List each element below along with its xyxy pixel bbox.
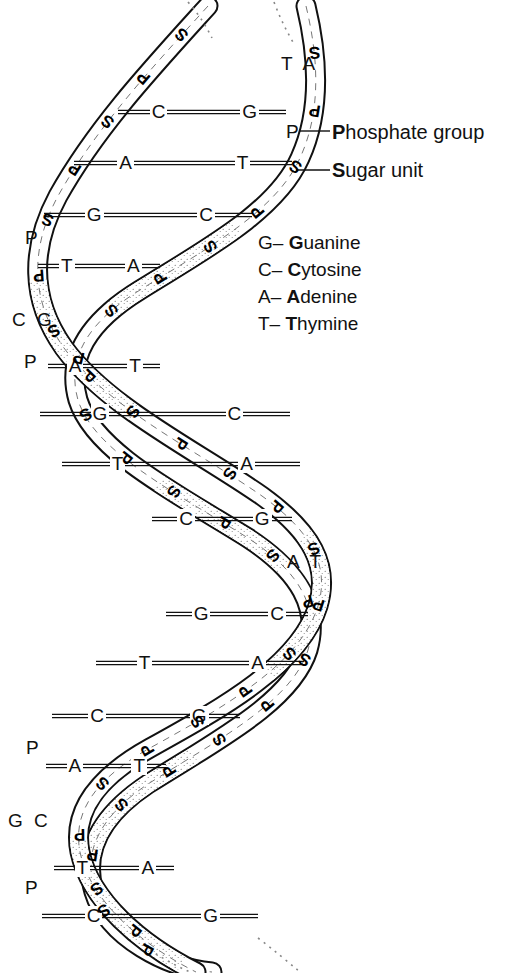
callout-sugar-head: S <box>332 159 345 181</box>
legend-item-adenine: A– Adenine <box>258 286 362 308</box>
base-letter-right-0: G <box>240 102 259 121</box>
crossing-label-left-upper: C G <box>12 310 55 329</box>
callout-phosphate-rest: hosphate group <box>345 121 484 143</box>
base-letter-right-5: C <box>226 404 244 423</box>
phosphate-unit-a5: P <box>32 266 45 284</box>
apex-phosphate-p-left-mid: P <box>26 738 39 757</box>
callout-sugar-rest: ugar unit <box>345 159 423 181</box>
base-letter-left-8: G <box>192 604 211 623</box>
legend-full-cytosine: Cytosine <box>288 259 362 280</box>
base-letter-right-11: T <box>131 756 147 775</box>
base-letter-right-12: A <box>139 858 156 877</box>
base-letter-right-2: C <box>197 205 215 224</box>
dna-figure: CGATGCTAATGCTACGGCTACGATTACGSPSPSPSPSPSP… <box>0 0 525 973</box>
base-letter-right-13: G <box>201 906 220 925</box>
callout-sugar-unit: Sugar unit <box>332 160 423 180</box>
crossing-label-left-lower: G C <box>8 811 51 830</box>
legend-abbr-t: T– <box>258 313 280 334</box>
base-letter-left-2: G <box>85 205 104 224</box>
base-legend: G– Guanine C– Cytosine A– Adenine T– Thy… <box>258 232 362 335</box>
legend-full-adenine: Adenine <box>287 286 358 307</box>
apex-phosphate-p-right-top: P <box>286 122 299 141</box>
apex-phosphate-p-left-bottom: P <box>24 352 37 371</box>
base-letter-left-7: C <box>177 509 195 528</box>
base-letter-left-11: A <box>67 756 84 775</box>
base-letter-right-3: A <box>125 256 142 275</box>
base-letter-right-6: A <box>238 454 255 473</box>
crossing-label-right-middle: A T <box>287 552 324 571</box>
legend-full-guanine: Guanine <box>289 232 361 253</box>
legend-item-guanine: G– Guanine <box>258 232 362 254</box>
base-letter-left-10: C <box>88 706 106 725</box>
crossing-label-top-right: T A <box>281 54 318 73</box>
legend-abbr-g: G– <box>258 232 283 253</box>
base-letter-left-3: T <box>59 256 75 275</box>
backbone-strand-b <box>75 6 316 972</box>
legend-item-thymine: T– Thymine <box>258 313 362 335</box>
callout-phosphate-head: P <box>332 121 345 143</box>
phosphate-unit-b19: P <box>86 845 100 864</box>
base-letter-right-7: G <box>253 509 272 528</box>
base-letter-right-9: A <box>249 653 266 672</box>
base-letter-right-4: T <box>127 356 143 375</box>
legend-item-cytosine: C– Cytosine <box>258 259 362 281</box>
legend-abbr-c: C– <box>258 259 282 280</box>
base-letter-left-9: T <box>137 653 153 672</box>
phosphate-unit-b1: P <box>307 102 321 121</box>
base-letter-left-1: A <box>117 153 134 172</box>
legend-abbr-a: A– <box>258 286 281 307</box>
base-letter-left-0: C <box>150 102 168 121</box>
callout-phosphate-group: Phosphate group <box>332 122 484 142</box>
legend-full-thymine: Thymine <box>285 313 358 334</box>
apex-phosphate-p-left-upper: P <box>25 228 38 247</box>
base-letter-right-8: C <box>268 604 286 623</box>
phosphate-unit-a19: P <box>73 826 85 843</box>
base-letter-right-1: T <box>235 153 251 172</box>
apex-phosphate-p-left-lower: P <box>25 878 38 897</box>
